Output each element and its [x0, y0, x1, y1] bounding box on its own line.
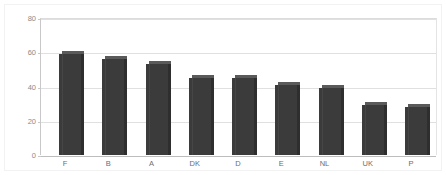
- bar-side-face: [124, 59, 127, 155]
- x-tick-label: F: [43, 160, 87, 168]
- bar-side-face: [297, 85, 300, 155]
- x-tick-label: D: [216, 160, 260, 168]
- x-tick-label: NL: [303, 160, 347, 168]
- x-tick-label: DK: [173, 160, 217, 168]
- bar[interactable]: [59, 54, 81, 155]
- y-tick-label: 40: [28, 84, 36, 92]
- y-tick-label: 0: [32, 152, 36, 160]
- x-tick-label: B: [86, 160, 130, 168]
- bar-highlight: [278, 85, 279, 155]
- x-tick-label: A: [130, 160, 174, 168]
- bar-top-face: [105, 56, 127, 59]
- bar-top-face: [149, 61, 171, 64]
- bar[interactable]: [362, 105, 384, 155]
- bar-highlight: [408, 107, 409, 155]
- y-tick-mark: [38, 156, 41, 157]
- bar-side-face: [81, 54, 84, 155]
- bar-side-face: [254, 78, 257, 155]
- bar[interactable]: [189, 78, 211, 155]
- bar-side-face: [384, 105, 387, 155]
- bar-top-face: [322, 85, 344, 88]
- bar-top-face: [62, 51, 84, 54]
- bar-top-face: [278, 82, 300, 85]
- bars-layer: [41, 19, 436, 155]
- chart-frame: 020406080 FBADKDENLUKP: [4, 4, 442, 171]
- bar-side-face: [427, 107, 430, 155]
- gridline: [41, 156, 436, 157]
- bar[interactable]: [405, 107, 427, 155]
- bar[interactable]: [102, 59, 124, 155]
- bar-highlight: [235, 78, 236, 155]
- y-tick-label: 60: [28, 50, 36, 58]
- bar-top-face: [408, 104, 430, 107]
- bar-top-face: [365, 102, 387, 105]
- bar-highlight: [62, 54, 63, 155]
- y-tick-label: 20: [28, 118, 36, 126]
- x-tick-label: P: [389, 160, 433, 168]
- bar-side-face: [211, 78, 214, 155]
- bar-highlight: [105, 59, 106, 155]
- bar-top-face: [192, 75, 214, 78]
- bar-highlight: [192, 78, 193, 155]
- plot-area: 020406080: [40, 18, 437, 155]
- bar[interactable]: [319, 88, 341, 155]
- bar-highlight: [365, 105, 366, 155]
- x-tick-label: UK: [346, 160, 390, 168]
- bar-chart: 020406080 FBADKDENLUKP: [0, 0, 446, 175]
- bar-highlight: [322, 88, 323, 155]
- bar[interactable]: [275, 85, 297, 155]
- bar-top-face: [235, 75, 257, 78]
- bar-side-face: [168, 64, 171, 155]
- bar[interactable]: [146, 64, 168, 155]
- bar-side-face: [341, 88, 344, 155]
- y-tick-label: 80: [28, 15, 36, 23]
- bar[interactable]: [232, 78, 254, 155]
- bar-highlight: [149, 64, 150, 155]
- x-tick-label: E: [259, 160, 303, 168]
